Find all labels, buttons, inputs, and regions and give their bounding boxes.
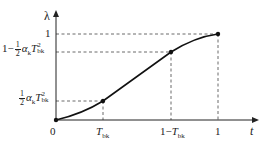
x-tick-one-minus-tbk: 1−Tbk bbox=[160, 126, 185, 140]
fraction-half: 12 bbox=[15, 41, 21, 58]
x-axis-arrow-icon bbox=[252, 117, 259, 123]
x-tick-tbk: Tbk bbox=[96, 126, 109, 140]
fraction-half: 12 bbox=[19, 90, 25, 107]
y-tick-upper: 1−12αkT2bk bbox=[2, 41, 41, 58]
axes bbox=[56, 16, 252, 120]
y-tick-one: 1 bbox=[45, 28, 51, 39]
x-tick-origin: 0 bbox=[50, 126, 56, 137]
chart-canvas bbox=[0, 0, 269, 145]
y-tick-upper-prefix: 1− bbox=[2, 42, 14, 54]
y-tick-lower: 12αkT2bk bbox=[18, 90, 45, 107]
x-axis-label: t bbox=[250, 125, 253, 137]
y-axis-label: λ bbox=[44, 10, 50, 22]
x-tick-one: 1 bbox=[215, 126, 221, 137]
lambda-curve bbox=[56, 34, 218, 120]
y-axis-arrow-icon bbox=[53, 10, 59, 17]
